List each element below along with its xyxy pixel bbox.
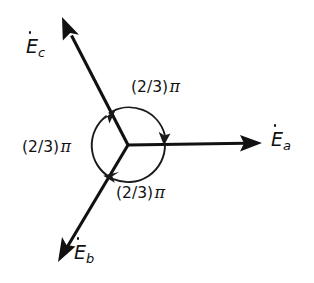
angle-label-bottom: (2/3)π	[116, 185, 165, 202]
overdot-ec	[29, 31, 32, 34]
pi-symbol-left: π	[59, 137, 71, 156]
phasor-letter-ec: E	[26, 35, 38, 57]
phasor-line-ea	[128, 143, 245, 145]
phasor-subscript-eb: b	[86, 251, 94, 266]
pi-symbol-bottom: π	[153, 183, 165, 202]
phasor-subscript-ea: a	[283, 138, 291, 153]
phasor-vector-ec	[62, 17, 128, 145]
angle-arc-bottom-path	[114, 145, 165, 182]
angle-value-top: (2/3)	[131, 78, 168, 96]
phasor-label-eb: Eb	[74, 243, 94, 262]
phasor-line-ec	[72, 36, 129, 146]
angle-value-left: (2/3)	[22, 138, 59, 156]
phasor-symbol-ec: E	[26, 37, 38, 56]
angle-arc-top-path	[110, 107, 165, 135]
overdot-ea	[274, 124, 277, 127]
arrowhead-eb	[58, 237, 76, 262]
phasor-subscript-ec: c	[38, 45, 45, 60]
phasor-vector-ea	[128, 135, 262, 152]
angle-arc-left-path	[92, 116, 110, 177]
angle-label-left: (2/3)π	[22, 139, 71, 156]
angle-value-bottom: (2/3)	[116, 184, 153, 202]
pi-symbol-top: π	[168, 77, 180, 96]
phasor-label-ea: Ea	[271, 130, 291, 149]
phasor-symbol-ea: E	[271, 130, 283, 149]
phasor-letter-eb: E	[74, 241, 86, 263]
angle-arc-bottom	[103, 145, 165, 183]
phasor-symbol-eb: E	[74, 243, 86, 262]
arrowhead-ec	[62, 17, 79, 41]
phasor-diagram: Ea Ec Eb (2/3)π (2/3)π (2/3)π	[0, 0, 314, 283]
angle-arc-left	[92, 109, 116, 177]
angle-label-top: (2/3)π	[131, 79, 180, 96]
overdot-eb	[77, 237, 80, 240]
phasor-letter-ea: E	[271, 128, 283, 150]
phasor-label-ec: Ec	[26, 37, 45, 56]
